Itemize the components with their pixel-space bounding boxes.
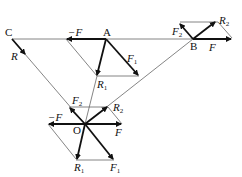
vector-R2-at-B <box>193 22 215 39</box>
vector-F2-at-O <box>70 108 85 124</box>
label-F1-A: F1 <box>126 52 138 66</box>
construction-lines <box>12 22 232 160</box>
label-negF-O: −F <box>48 111 62 123</box>
label-R1-O: R1 <box>73 161 85 175</box>
label-R2-O: R2 <box>112 101 124 115</box>
diagram-canvas: C A B O R −F F1 R1 F2 R2 F F2 R2 −F F R1… <box>0 0 242 177</box>
label-R1-A: R1 <box>96 78 108 92</box>
label-negF-A: −F <box>68 26 82 38</box>
label-F-B: F <box>208 41 216 53</box>
label-F1-O: F1 <box>109 161 121 175</box>
vector-F1-at-O <box>85 124 113 159</box>
force-diagram: C A B O R −F F1 R1 F2 R2 F F2 R2 −F F R1… <box>0 0 242 177</box>
label-F2-B: F2 <box>171 25 183 39</box>
label-R2-B: R2 <box>218 14 230 28</box>
para-line <box>66 39 97 76</box>
point-label-C: C <box>5 26 12 38</box>
vectors <box>12 22 231 159</box>
label-R-C: R <box>10 50 18 62</box>
label-F-O: F <box>114 126 122 138</box>
vector-R1-at-A <box>97 39 106 75</box>
point-label-A: A <box>103 26 111 38</box>
label-F2-O: F2 <box>71 94 83 108</box>
para-line <box>48 124 76 159</box>
point-label-B: B <box>190 40 197 52</box>
point-label-O: O <box>73 124 81 136</box>
